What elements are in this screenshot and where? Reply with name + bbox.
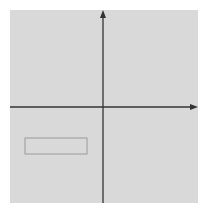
function-graph [0,0,207,214]
equation-label-box [25,138,87,154]
